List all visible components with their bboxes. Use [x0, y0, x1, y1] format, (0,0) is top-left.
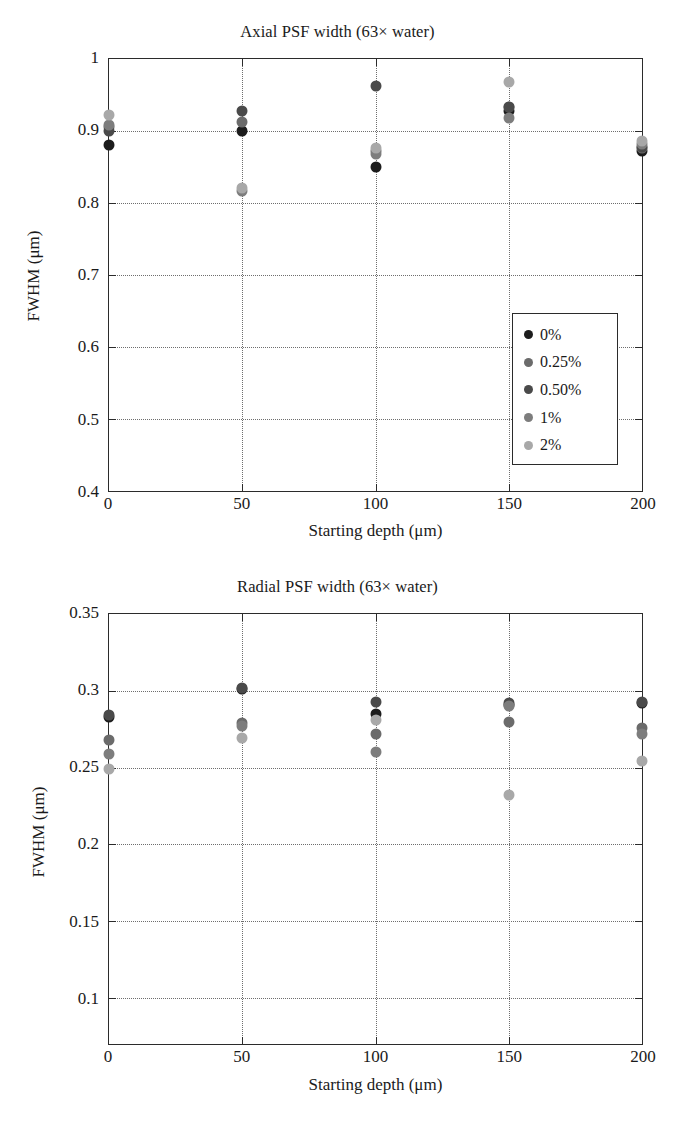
x-tick-label: 100 [363, 494, 389, 514]
gridline-vertical [509, 59, 510, 491]
x-tick-label: 50 [233, 1047, 250, 1067]
data-point [237, 733, 248, 744]
y-tick-label: 0.35 [69, 603, 108, 623]
axis-tick-x [242, 1037, 243, 1044]
data-point [237, 682, 248, 693]
gridline-vertical [242, 614, 243, 1044]
data-point [104, 748, 115, 759]
axis-tick-y [635, 131, 642, 132]
y-tick-label: 0.15 [69, 912, 108, 932]
y-tick-label: 0.25 [69, 757, 108, 777]
axial-y-tick-labels: 0.40.50.60.70.80.91 [0, 58, 108, 492]
y-tick-label: 1 [91, 48, 109, 68]
data-point [503, 716, 514, 727]
data-point [370, 728, 381, 739]
y-tick-label: 0.8 [78, 193, 108, 213]
data-point [637, 696, 648, 707]
axial-x-axis-title: Starting depth (μm) [108, 521, 643, 541]
legend-marker-icon [524, 330, 533, 339]
data-point [503, 113, 514, 124]
radial-y-tick-labels: 0.10.150.20.250.30.35 [0, 613, 108, 1045]
gridline-vertical [509, 614, 510, 1044]
axis-tick-y [109, 844, 116, 845]
axis-tick-x [509, 614, 510, 621]
axis-tick-y [635, 275, 642, 276]
y-tick-label: 0.2 [78, 834, 108, 854]
axial-legend: 0%0.25%0.50%1%2% [512, 313, 618, 465]
legend-marker-icon [524, 413, 533, 422]
radial-chart-title: Radial PSF width (63× water) [0, 577, 675, 597]
axis-tick-y [635, 768, 642, 769]
axis-tick-y [635, 921, 642, 922]
data-point [104, 710, 115, 721]
legend-item-label: 1% [540, 410, 561, 426]
axis-tick-y [109, 347, 116, 348]
gridline-vertical [376, 614, 377, 1044]
data-point [104, 734, 115, 745]
x-tick-label: 100 [363, 1047, 389, 1067]
legend-marker-icon [524, 441, 533, 450]
x-tick-label: 200 [630, 1047, 656, 1067]
axis-tick-x [509, 1037, 510, 1044]
gridline-vertical [376, 59, 377, 491]
axis-tick-y [635, 419, 642, 420]
radial-plot-inner [109, 614, 642, 1044]
data-point [104, 110, 115, 121]
axis-tick-x [376, 1037, 377, 1044]
axis-tick-x [376, 614, 377, 621]
data-point [237, 105, 248, 116]
data-point [237, 721, 248, 732]
data-point [370, 162, 381, 173]
legend-item[interactable]: 0% [524, 321, 603, 349]
data-point [237, 182, 248, 193]
x-tick-label: 50 [233, 494, 250, 514]
legend-marker-icon [524, 358, 533, 367]
legend-item[interactable]: 0.50% [524, 376, 603, 404]
axis-tick-x [376, 59, 377, 66]
axis-tick-x [242, 484, 243, 491]
data-point [370, 696, 381, 707]
legend-item[interactable]: 2% [524, 431, 603, 459]
legend-item[interactable]: 1% [524, 404, 603, 432]
data-point [503, 102, 514, 113]
axis-tick-y [109, 921, 116, 922]
data-point [503, 790, 514, 801]
y-tick-label: 0.1 [78, 989, 108, 1009]
axis-tick-y [635, 998, 642, 999]
radial-x-axis-title: Starting depth (μm) [108, 1075, 643, 1095]
axis-tick-y [635, 844, 642, 845]
x-tick-label: 0 [104, 494, 113, 514]
data-point [637, 728, 648, 739]
axis-tick-x [509, 484, 510, 491]
radial-plot-area [108, 613, 643, 1045]
data-point [237, 117, 248, 128]
radial-psf-figure: Radial PSF width (63× water) FWHM (μm) 0… [0, 560, 675, 1121]
data-point [104, 120, 115, 131]
data-point [104, 140, 115, 151]
data-point [370, 81, 381, 92]
legend-item[interactable]: 0.25% [524, 349, 603, 377]
legend-item-label: 2% [540, 437, 561, 453]
axis-tick-y [635, 347, 642, 348]
data-point [370, 143, 381, 154]
data-point [503, 77, 514, 88]
y-tick-label: 0.7 [78, 265, 108, 285]
legend-item-label: 0% [540, 327, 561, 343]
axial-psf-figure: Axial PSF width (63× water) FWHM (μm) 0.… [0, 0, 675, 560]
legend-marker-icon [524, 385, 533, 394]
axis-tick-y [109, 275, 116, 276]
legend-item-label: 0.50% [540, 382, 581, 398]
axis-tick-y [109, 998, 116, 999]
axis-tick-x [509, 59, 510, 66]
axis-tick-y [109, 203, 116, 204]
x-tick-label: 150 [497, 494, 523, 514]
x-tick-label: 150 [497, 1047, 523, 1067]
axis-tick-y [635, 691, 642, 692]
axis-tick-x [242, 59, 243, 66]
y-tick-label: 0.3 [78, 680, 108, 700]
data-point [104, 764, 115, 775]
y-tick-label: 0.5 [78, 410, 108, 430]
axis-tick-x [376, 484, 377, 491]
data-point [370, 747, 381, 758]
legend-item-label: 0.25% [540, 354, 581, 370]
